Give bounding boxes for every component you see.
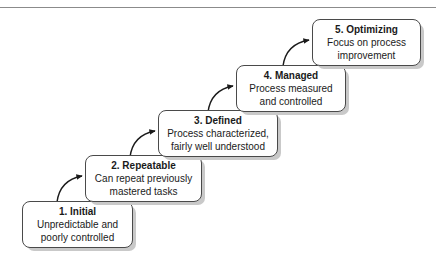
stage-box-1[interactable]: 1. Initial Unpredictable and poorly cont…	[22, 201, 133, 248]
stage-desc-line-2: mastered tasks	[110, 185, 178, 198]
stage-title: 4. Managed	[264, 69, 318, 82]
diagram-canvas: 1. Initial Unpredictable and poorly cont…	[0, 0, 436, 266]
stage-box-5[interactable]: 5. Optimizing Focus on process improveme…	[312, 19, 421, 66]
stage-box-4[interactable]: 4. Managed Process measured and controll…	[236, 65, 346, 112]
stage-title: 3. Defined	[194, 114, 242, 127]
stage-desc-line-2: fairly well understood	[171, 140, 265, 153]
stage-title: 1. Initial	[59, 205, 96, 218]
top-divider-rule	[0, 7, 436, 8]
stage-desc-line-1: Can repeat previously	[95, 172, 192, 185]
arrow-stage4-to-stage5	[283, 40, 309, 66]
arrow-stage2-to-stage3	[130, 131, 155, 157]
stage-desc-line-1: Unpredictable and	[37, 218, 118, 231]
stage-desc-line-1: Process measured	[249, 82, 332, 95]
stage-desc-line-1: Focus on process	[327, 36, 406, 49]
stage-desc-line-1: Process characterized,	[167, 127, 269, 140]
arrow-stage1-to-stage2	[57, 176, 82, 202]
stage-title: 2. Repeatable	[111, 159, 175, 172]
arrow-stage3-to-stage4	[208, 86, 233, 112]
stage-desc-line-2: improvement	[338, 49, 396, 62]
stage-desc-line-2: and controlled	[260, 95, 323, 108]
stage-desc-line-2: poorly controlled	[41, 231, 114, 244]
stage-title: 5. Optimizing	[335, 23, 398, 36]
stage-box-3[interactable]: 3. Defined Process characterized, fairly…	[158, 110, 278, 157]
stage-box-2[interactable]: 2. Repeatable Can repeat previously mast…	[85, 155, 202, 202]
